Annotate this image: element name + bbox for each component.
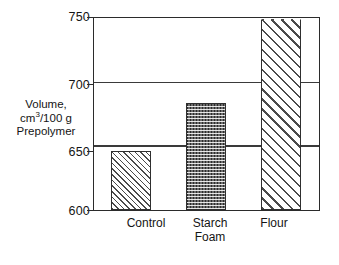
y-axis-title: Volume, cm3/100 g Prepolymer — [4, 98, 88, 139]
x-label-flour-line1: Flour — [260, 216, 287, 230]
bar-starch-foam — [186, 103, 226, 210]
x-label-control-line1: Control — [127, 216, 166, 230]
y-axis-title-line2-post: /100 g — [40, 112, 72, 124]
y-axis-title-line3: Prepolymer — [4, 125, 88, 139]
x-label-flour: Flour — [229, 216, 319, 230]
y-axis-title-line1: Volume, — [4, 98, 88, 112]
y-axis-title-line2: cm3/100 g — [4, 112, 88, 126]
x-label-starch-line2: Foam — [165, 230, 255, 244]
y-axis-title-line2-pre: cm — [20, 112, 35, 124]
plot-frame — [93, 17, 320, 211]
bar-flour — [261, 19, 301, 210]
y-tick-label-650: 650 — [52, 146, 90, 159]
bar-control — [111, 151, 151, 210]
x-label-starch-line1: Starch — [193, 216, 228, 230]
plot-area — [94, 18, 319, 210]
bar-chart-figure: Volume, cm3/100 g Prepolymer 750 700 650… — [0, 0, 339, 265]
y-tick-label-700: 700 — [52, 79, 90, 92]
y-tick-label-600: 600 — [52, 205, 90, 218]
y-tick-label-750: 750 — [52, 11, 90, 24]
